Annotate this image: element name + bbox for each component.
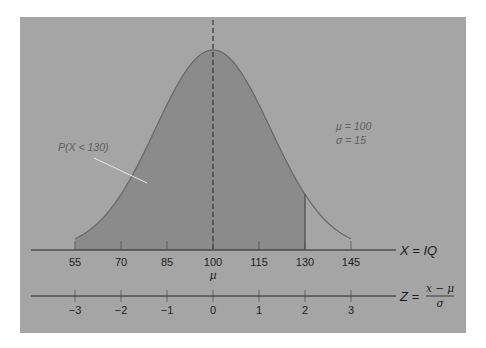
- x-tick-label: 115: [250, 256, 268, 268]
- x-tick-label: 130: [296, 256, 314, 268]
- x-tick-label: 145: [342, 256, 360, 268]
- x-tick-label: 85: [161, 256, 173, 268]
- normal-distribution-chart: 557085100115130145 X = IQ μ −3−2−10123 Z…: [20, 17, 466, 333]
- z-tick-label: −1: [161, 304, 174, 316]
- z-formula-denominator: σ: [436, 297, 444, 309]
- mean-annotation: μ = 100: [335, 120, 371, 132]
- x-tick-label: 55: [69, 256, 81, 268]
- z-tick-label: −3: [69, 304, 82, 316]
- z-formula-numerator: x − μ: [426, 282, 454, 294]
- z-tick-label: 2: [302, 304, 308, 316]
- x-axis-label: X = IQ: [399, 243, 437, 258]
- x-tick-label: 70: [115, 256, 127, 268]
- z-tick-label: 3: [348, 304, 354, 316]
- x-tick-label: 100: [204, 256, 222, 268]
- z-tick-label: 0: [210, 304, 216, 316]
- sd-annotation: σ = 15: [336, 134, 366, 146]
- chart-panel: 557085100115130145 X = IQ μ −3−2−10123 Z…: [20, 17, 466, 333]
- mu-label-under-100: μ: [209, 269, 216, 282]
- z-axis-label: Z =: [399, 289, 420, 304]
- z-tick-label: 1: [256, 304, 262, 316]
- area-label: P(X < 130): [58, 141, 109, 153]
- shaded-area-p-x-less-130: [75, 50, 305, 250]
- z-axis-ticks: −3−2−10123: [69, 290, 354, 316]
- z-tick-label: −2: [115, 304, 128, 316]
